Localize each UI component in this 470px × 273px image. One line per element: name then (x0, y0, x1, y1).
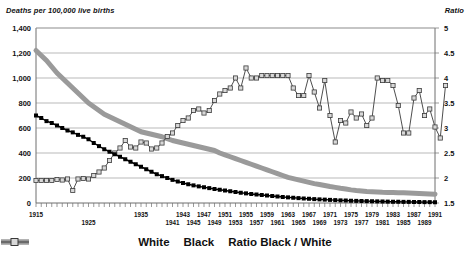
white-data-point (323, 198, 327, 202)
white-data-point (108, 150, 112, 154)
x-axis-tick: 1971 (323, 211, 338, 218)
ratio-data-point (438, 136, 442, 140)
ratio-data-point (265, 73, 269, 77)
ratio-data-point (407, 131, 411, 135)
white-data-point (244, 191, 248, 195)
x-axis-tick: 1949 (207, 219, 222, 226)
ratio-data-point (123, 138, 127, 142)
ratio-data-point (386, 78, 390, 82)
y-axis-tick: 400 (18, 149, 31, 158)
white-data-point (71, 130, 75, 134)
y-axis-tick: 1,200 (12, 49, 31, 58)
ratio-data-point (149, 147, 153, 151)
ratio-data-point (354, 116, 358, 120)
white-data-point (260, 193, 264, 197)
white-data-point (265, 194, 269, 198)
ratio-data-point (139, 140, 143, 144)
y2-axis-tick: 3 (444, 124, 448, 133)
white-data-point (60, 126, 64, 130)
ratio-data-point (270, 73, 274, 77)
x-axis-tick: 1979 (365, 211, 380, 218)
x-axis-tick: 1925 (81, 219, 96, 226)
y-axis-tick: 600 (18, 124, 31, 133)
legend-item-black[interactable]: Black (184, 236, 215, 248)
white-data-point (312, 197, 316, 201)
white-data-point (123, 157, 127, 161)
legend-item-ratio[interactable]: Ratio Black / White (228, 236, 332, 248)
ratio-data-point (307, 73, 311, 77)
x-axis-tick: 1915 (29, 211, 44, 218)
white-data-point (276, 195, 280, 199)
ratio-data-point (254, 76, 258, 80)
white-data-point (218, 188, 222, 192)
series-black (36, 51, 435, 195)
ratio-data-point (218, 92, 222, 96)
ratio-data-point (333, 140, 337, 144)
ratio-data-point (202, 111, 206, 115)
ratio-data-point (181, 118, 185, 122)
legend-label-white: White (138, 236, 169, 248)
ratio-data-point (349, 110, 353, 114)
white-data-point (423, 200, 427, 204)
white-data-point (307, 197, 311, 201)
white-data-point (333, 198, 337, 202)
white-data-point (39, 116, 43, 120)
white-data-point (281, 195, 285, 199)
white-data-point (66, 129, 70, 133)
white-data-point (76, 133, 80, 137)
white-data-point (134, 162, 138, 166)
ratio-data-point (228, 86, 232, 90)
ratio-data-point (380, 78, 384, 82)
ratio-data-point (317, 106, 321, 110)
ratio-data-point (197, 107, 201, 111)
ratio-data-point (244, 66, 248, 70)
ratio-data-point (102, 166, 106, 170)
white-data-point (171, 178, 175, 182)
ratio-data-point (249, 76, 253, 80)
white-data-point (328, 198, 332, 202)
ratio-data-point (170, 131, 174, 135)
ratio-data-point (97, 170, 101, 174)
white-data-point (302, 197, 306, 201)
white-data-point (255, 193, 259, 197)
white-data-point (370, 199, 374, 203)
white-data-point (381, 200, 385, 204)
ratio-data-point (443, 83, 447, 87)
plot-area: 02004006008001,0001,2001,4001.522.533.54… (0, 0, 470, 273)
white-data-point (129, 160, 133, 164)
white-data-point (249, 192, 253, 196)
y2-axis-tick: 5 (444, 24, 448, 33)
white-data-point (181, 181, 185, 185)
ratio-data-point (207, 108, 211, 112)
x-axis-tick: 1963 (281, 211, 296, 218)
white-data-point (286, 195, 290, 199)
x-axis-tick: 1951 (218, 211, 233, 218)
ratio-data-point (107, 158, 111, 162)
ratio-data-point (412, 96, 416, 100)
legend-item-white[interactable]: White (138, 236, 169, 248)
y2-axis-tick: 1.5 (444, 199, 454, 208)
y-axis-tick: 1,000 (12, 74, 31, 83)
ratio-data-point (375, 76, 379, 80)
white-data-point (412, 200, 416, 204)
ratio-data-point (176, 123, 180, 127)
ratio-data-point (76, 177, 80, 181)
white-data-point (186, 182, 190, 186)
white-data-point (34, 114, 38, 118)
legend-swatch-ratio (0, 236, 30, 248)
white-data-point (407, 200, 411, 204)
ratio-data-point (134, 146, 138, 150)
white-data-point (402, 200, 406, 204)
ratio-data-point (344, 121, 348, 125)
ratio-data-point (275, 73, 279, 77)
white-data-point (45, 119, 49, 123)
ratio-data-point (233, 76, 237, 80)
ratio-data-point (34, 178, 38, 182)
white-data-point (176, 180, 180, 184)
white-data-point (391, 200, 395, 204)
chart-legend: White Black Ratio Black / White (0, 236, 470, 248)
ratio-data-point (160, 141, 164, 145)
maternal-mortality-chart: Deaths per 100,000 live births Ratio 020… (0, 0, 470, 273)
white-data-point (155, 172, 159, 176)
x-axis-tick: 1987 (407, 211, 422, 218)
